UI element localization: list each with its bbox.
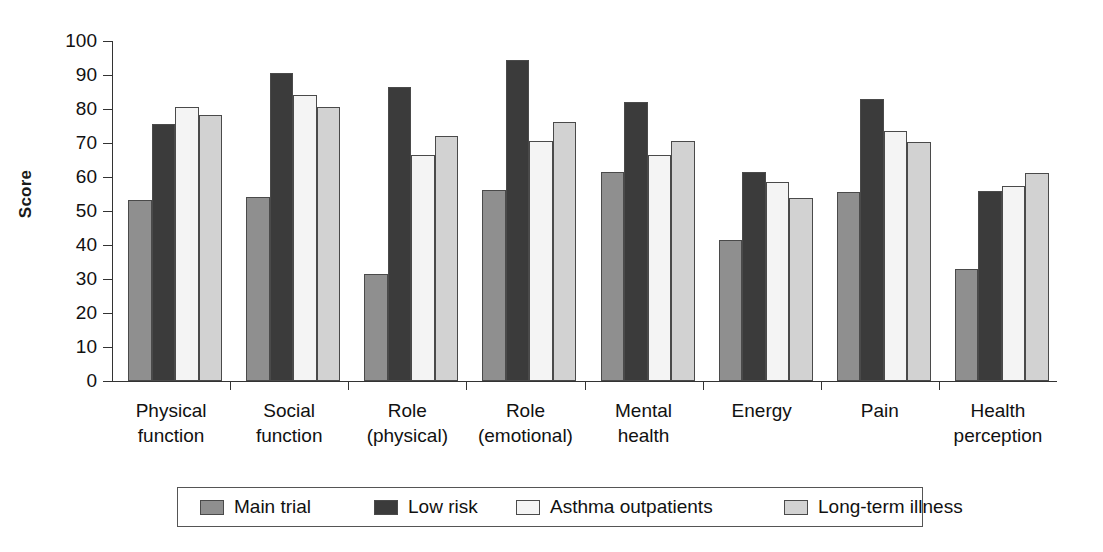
- y-tick-label: 80: [76, 98, 97, 120]
- bar: [719, 240, 743, 381]
- x-tick-mark: [348, 382, 349, 390]
- y-tick-mark: [103, 381, 112, 382]
- legend-swatch-icon: [374, 500, 398, 515]
- bar: [648, 155, 672, 381]
- y-tick-label: 30: [76, 268, 97, 290]
- y-tick-mark: [103, 75, 112, 76]
- y-tick-mark: [103, 245, 112, 246]
- y-tick-mark: [103, 313, 112, 314]
- bar: [152, 124, 176, 381]
- bar: [317, 107, 341, 381]
- bar: [553, 122, 577, 381]
- bar: [1025, 173, 1049, 381]
- y-tick: 60: [103, 177, 112, 178]
- bar: [246, 197, 270, 381]
- x-tick-mark: [585, 382, 586, 390]
- bar: [482, 190, 506, 381]
- x-tick-mark: [466, 382, 467, 390]
- y-tick-mark: [103, 279, 112, 280]
- chart-legend: Main trialLow riskAsthma outpatientsLong…: [177, 487, 923, 527]
- bar: [270, 73, 294, 381]
- legend-label: Main trial: [234, 496, 311, 518]
- x-axis-label: Healthperception: [923, 398, 1073, 448]
- y-tick-mark: [103, 177, 112, 178]
- legend-label: Long-term illness: [818, 496, 963, 518]
- y-tick-mark: [103, 41, 112, 42]
- legend-swatch-icon: [200, 500, 224, 515]
- bar: [766, 182, 790, 381]
- y-tick-mark: [103, 211, 112, 212]
- bar: [175, 107, 199, 381]
- plot-area: 1009080706050403020100: [112, 41, 1057, 381]
- bar: [837, 192, 861, 381]
- bar: [388, 87, 412, 381]
- y-tick: 50: [103, 211, 112, 212]
- y-tick-label: 90: [76, 64, 97, 86]
- y-tick: 90: [103, 75, 112, 76]
- bar: [955, 269, 979, 381]
- y-tick: 10: [103, 347, 112, 348]
- y-tick-mark: [103, 109, 112, 110]
- y-tick: 0: [103, 381, 112, 382]
- x-tick-mark: [703, 382, 704, 390]
- bar: [293, 95, 317, 381]
- legend-label: Asthma outpatients: [550, 496, 713, 518]
- bar: [411, 155, 435, 381]
- bar-chart: Score 1009080706050403020100 Physicalfun…: [0, 0, 1103, 552]
- x-tick-mark: [230, 382, 231, 390]
- bar: [506, 60, 530, 381]
- y-tick-label: 10: [76, 336, 97, 358]
- legend-item[interactable]: Low risk: [374, 496, 478, 518]
- x-axis-label-line: Health: [923, 398, 1073, 423]
- y-tick: 100: [103, 41, 112, 42]
- y-tick: 30: [103, 279, 112, 280]
- y-axis-title: Score: [16, 144, 36, 244]
- legend-item[interactable]: Long-term illness: [784, 496, 963, 518]
- legend-item[interactable]: Asthma outpatients: [516, 496, 713, 518]
- legend-swatch-icon: [516, 500, 540, 515]
- bar: [1002, 186, 1026, 382]
- bar: [860, 99, 884, 381]
- x-tick-mark: [821, 382, 822, 390]
- bar: [601, 172, 625, 381]
- y-tick-label: 0: [86, 370, 97, 392]
- bar: [199, 115, 223, 381]
- legend-swatch-icon: [784, 500, 808, 515]
- bar: [671, 141, 695, 381]
- bar: [742, 172, 766, 381]
- y-tick-label: 40: [76, 234, 97, 256]
- bar: [884, 131, 908, 381]
- x-axis-label-line: perception: [923, 423, 1073, 448]
- legend-label: Low risk: [408, 496, 478, 518]
- y-tick-mark: [103, 347, 112, 348]
- y-tick-label: 50: [76, 200, 97, 222]
- y-tick-label: 20: [76, 302, 97, 324]
- y-tick-label: 100: [65, 30, 97, 52]
- bar: [529, 141, 553, 381]
- bar: [978, 191, 1002, 381]
- bar: [364, 274, 388, 381]
- bar: [624, 102, 648, 381]
- y-tick-label: 60: [76, 166, 97, 188]
- y-tick-mark: [103, 143, 112, 144]
- y-tick: 20: [103, 313, 112, 314]
- y-tick: 40: [103, 245, 112, 246]
- bar: [128, 200, 152, 381]
- bar: [435, 136, 459, 381]
- x-tick-mark: [939, 382, 940, 390]
- bar: [907, 142, 931, 381]
- y-tick: 70: [103, 143, 112, 144]
- legend-item[interactable]: Main trial: [200, 496, 311, 518]
- bar: [789, 198, 813, 381]
- y-tick: 80: [103, 109, 112, 110]
- y-tick-label: 70: [76, 132, 97, 154]
